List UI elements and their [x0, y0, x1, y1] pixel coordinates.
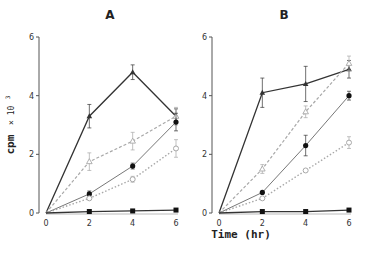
filled-square-marker — [260, 209, 265, 214]
series-open-triangle — [46, 107, 179, 213]
filled-square-marker — [303, 209, 308, 214]
x-tick-label: 4 — [130, 219, 135, 228]
y-tick-label: 2 — [29, 150, 34, 159]
x-tick-label: 6 — [346, 219, 351, 228]
figure: A02460246B02460246 Time (hr) cpm × 10 3 — [0, 0, 366, 253]
x-tick-label: 0 — [216, 219, 221, 228]
panel-a: A02460246 — [29, 8, 179, 228]
y-tick-label: 2 — [202, 150, 207, 159]
panel-b: B02460246 — [202, 8, 352, 228]
open-circle-marker — [260, 196, 265, 201]
open-circle-marker — [130, 177, 135, 182]
x-tick-label: 0 — [43, 219, 48, 228]
y-tick-label: 6 — [202, 33, 207, 42]
x-tick-label: 6 — [173, 219, 178, 228]
x-axis-title: Time (hr) — [211, 228, 271, 241]
filled-circle-marker — [260, 190, 265, 195]
series-open-triangle — [219, 56, 352, 213]
open-triangle-marker — [87, 159, 93, 164]
filled-circle-marker — [303, 143, 308, 148]
open-triangle-marker — [260, 166, 266, 171]
x-tick-label: 4 — [303, 219, 308, 228]
filled-square-marker — [347, 208, 352, 213]
series-filled-square — [46, 208, 179, 214]
filled-circle-marker — [173, 119, 178, 124]
y-tick-label: 4 — [29, 92, 34, 101]
filled-square-marker — [174, 208, 179, 213]
series-filled-circle — [219, 91, 352, 213]
x-tick-label: 2 — [260, 219, 265, 228]
panel-title: A — [105, 8, 115, 22]
series-filled-circle — [46, 113, 179, 213]
y-tick-label: 0 — [202, 209, 207, 218]
y-tick-label: 6 — [29, 33, 34, 42]
x-tick-label: 2 — [87, 219, 92, 228]
panel-title: B — [279, 8, 288, 22]
series-filled-square — [219, 208, 352, 214]
filled-circle-marker — [130, 163, 135, 168]
open-circle-marker — [87, 196, 92, 201]
open-circle-marker — [347, 140, 352, 145]
y-axis-title-main: cpm — [4, 134, 17, 154]
y-tick-label: 0 — [29, 209, 34, 218]
svg-text:cpm × 10 3: cpm × 10 3 — [4, 95, 17, 154]
filled-circle-marker — [346, 93, 351, 98]
series-open-circle — [219, 137, 352, 213]
y-axis-title-exp: 3 — [4, 95, 11, 99]
filled-square-marker — [87, 209, 92, 214]
filled-triangle-marker — [130, 69, 136, 74]
y-axis-title: cpm × 10 3 — [4, 95, 17, 154]
open-circle-marker — [174, 146, 179, 151]
filled-square-marker — [130, 208, 135, 213]
y-tick-label: 4 — [202, 92, 207, 101]
y-axis-title-mult: × 10 — [7, 106, 16, 125]
open-triangle-marker — [346, 60, 352, 65]
open-circle-marker — [303, 168, 308, 173]
